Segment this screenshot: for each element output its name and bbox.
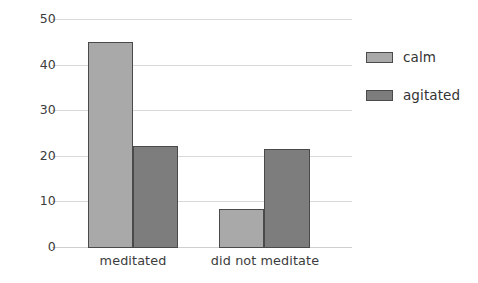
bar-meditated-agitated <box>133 146 178 248</box>
legend-label-calm: calm <box>403 49 436 65</box>
bar-meditated-calm <box>88 42 133 248</box>
legend-item-agitated: agitated <box>366 76 460 114</box>
calm-swatch-icon <box>366 52 393 63</box>
legend-label-agitated: agitated <box>403 87 460 103</box>
ytick-label-20: 20 <box>20 150 56 163</box>
gridline-50 <box>52 19 352 20</box>
ytick-label-40: 40 <box>20 59 56 72</box>
xtick-label-did-not-meditate: did not meditate <box>195 253 335 268</box>
bar-did-not-meditate-agitated <box>264 149 310 248</box>
chart-legend: calm agitated <box>366 38 460 114</box>
legend-item-calm: calm <box>366 38 460 76</box>
bar-did-not-meditate-calm <box>219 209 264 248</box>
xtick-label-meditated: meditated <box>83 253 183 268</box>
agitated-swatch-icon <box>366 90 393 101</box>
bar-chart: 50 40 30 20 10 0 meditated did not medit… <box>0 0 478 283</box>
ytick-label-30: 30 <box>20 104 56 117</box>
ytick-label-50: 50 <box>20 13 56 26</box>
ytick-label-0: 0 <box>20 241 56 254</box>
ytick-label-10: 10 <box>20 195 56 208</box>
